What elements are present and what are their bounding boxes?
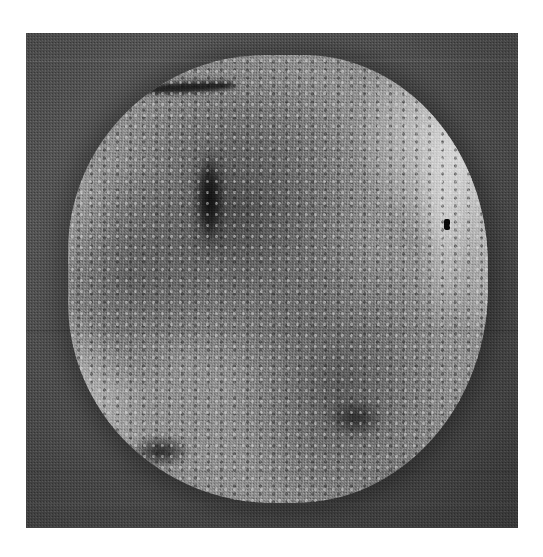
specimen-blob (68, 55, 488, 503)
scan-image-panel (26, 33, 518, 528)
page-canvas (0, 0, 543, 557)
fibrous-striation-texture (68, 55, 488, 503)
